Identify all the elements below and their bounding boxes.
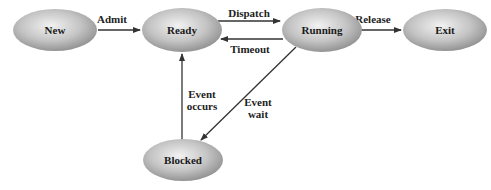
node-running-label: Running (302, 24, 343, 36)
node-blocked: Blocked (143, 139, 223, 181)
state-diagram: Admit Dispatch Timeout Release Event wai… (0, 0, 491, 190)
label-release: Release (355, 13, 391, 25)
node-new-label: New (45, 24, 66, 36)
node-blocked-label: Blocked (164, 154, 202, 166)
label-event-occurs-line1: Event (188, 88, 216, 100)
label-dispatch: Dispatch (228, 7, 270, 19)
label-admit: Admit (97, 13, 127, 25)
node-exit-label: Exit (435, 24, 455, 36)
node-new: New (13, 9, 97, 51)
label-event-wait-line1: Event (244, 96, 272, 108)
node-ready: Ready (142, 8, 222, 52)
node-running: Running (282, 8, 362, 52)
label-event-occurs-line2: occurs (187, 100, 218, 112)
label-event-wait-line2: wait (248, 108, 269, 120)
label-timeout: Timeout (230, 43, 270, 55)
node-exit: Exit (403, 9, 487, 51)
node-ready-label: Ready (167, 24, 197, 36)
